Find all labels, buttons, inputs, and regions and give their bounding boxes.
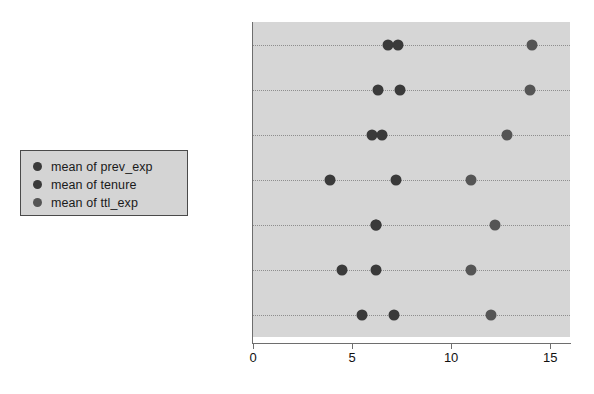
legend-entry-label: mean of ttl_exp: [51, 196, 138, 210]
data-point: [370, 264, 381, 275]
plot-area: [253, 22, 570, 337]
x-axis-tick: [253, 343, 254, 349]
x-axis-tick: [451, 343, 452, 349]
data-point: [388, 309, 399, 320]
data-point: [356, 309, 367, 320]
legend-entry: mean of ttl_exp: [33, 194, 187, 211]
data-point: [392, 39, 403, 50]
x-axis-tick-label: 0: [249, 350, 256, 365]
gridline: [253, 180, 570, 181]
legend-marker-icon: [33, 198, 42, 207]
gridline: [253, 135, 570, 136]
legend-entry: mean of prev_exp: [33, 158, 187, 175]
data-point: [337, 264, 348, 275]
data-point: [485, 309, 496, 320]
data-point: [376, 129, 387, 140]
y-axis-line: [252, 22, 253, 344]
data-point: [390, 174, 401, 185]
legend-marker-icon: [33, 162, 42, 171]
data-point: [372, 84, 383, 95]
x-axis-tick-label: 10: [444, 350, 458, 365]
x-axis-tick: [550, 343, 551, 349]
data-point: [525, 84, 536, 95]
chart-legend: mean of prev_exp mean of tenure mean of …: [20, 150, 188, 216]
data-point: [527, 39, 538, 50]
data-point: [489, 219, 500, 230]
legend-marker-icon: [33, 180, 42, 189]
gridline: [253, 270, 570, 271]
data-point: [465, 264, 476, 275]
data-point: [501, 129, 512, 140]
data-point: [394, 84, 405, 95]
x-axis-tick-label: 5: [348, 350, 355, 365]
data-point: [465, 174, 476, 185]
gridline: [253, 225, 570, 226]
gridline: [253, 90, 570, 91]
gridline: [253, 315, 570, 316]
legend-entry-label: mean of tenure: [51, 178, 136, 192]
gridline: [253, 45, 570, 46]
legend-entry-label: mean of prev_exp: [51, 160, 153, 174]
data-point: [370, 219, 381, 230]
x-axis-tick-label: 15: [543, 350, 557, 365]
data-point: [325, 174, 336, 185]
x-axis-tick: [352, 343, 353, 349]
legend-entry: mean of tenure: [33, 176, 187, 193]
x-axis-line: [252, 343, 571, 344]
